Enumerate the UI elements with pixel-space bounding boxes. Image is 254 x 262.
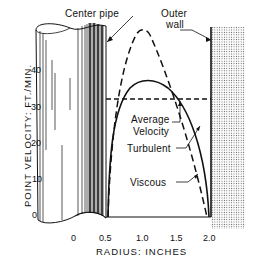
x-tick-2-0: 2.0 [203, 234, 216, 243]
average-velocity-label-line2: Velocity [133, 127, 169, 137]
viscous-label: Viscous [130, 178, 166, 188]
x-tick-0-5: 0.5 [99, 234, 112, 243]
center-pipe-label: Center pipe [65, 9, 119, 19]
y-tick-0: 0 [32, 211, 37, 220]
y-axis-label: POINT VELOCITY: FT./MIN. [22, 61, 33, 211]
y-tick-10: 10 [32, 175, 42, 184]
average-velocity-label-line1: Average [131, 115, 169, 125]
outer-wall-label-line2: wall [166, 20, 184, 30]
y-tick-30: 30 [31, 103, 41, 112]
x-tick-0: 0 [71, 234, 76, 243]
velocity-profile-diagram [0, 0, 254, 262]
x-tick-1-5: 1.5 [170, 234, 183, 243]
x-tick-1-0: 1.0 [136, 234, 149, 243]
x-axis-label: RADIUS: INCHES [96, 247, 187, 257]
y-tick-20: 20 [31, 139, 41, 148]
outer-wall-label-line1: Outer [161, 9, 187, 19]
center-pipe [36, 23, 106, 223]
outer-wall [211, 27, 245, 229]
turbulent-label: Turbulent [127, 144, 171, 154]
y-tick-40: 40 [31, 66, 41, 75]
